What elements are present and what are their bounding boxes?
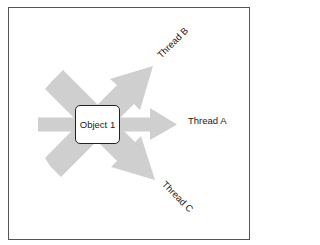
object-label: Object 1 bbox=[80, 119, 115, 130]
object-1-box: Object 1 bbox=[75, 105, 120, 144]
thread-a-label: Thread A bbox=[188, 115, 227, 126]
